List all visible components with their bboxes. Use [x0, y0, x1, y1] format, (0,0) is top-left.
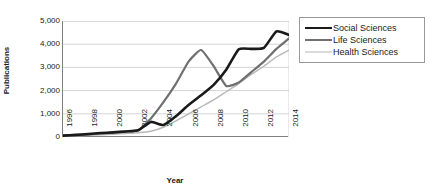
x-axis-tick-label: 1996 [65, 109, 74, 143]
x-axis-tick-label: 2012 [266, 109, 275, 143]
legend-line-swatch [303, 46, 333, 58]
y-axis-tick-label: 1,000 [16, 110, 60, 118]
x-axis-tick-label: 2000 [115, 109, 124, 143]
legend-item-label: Life Sciences [333, 35, 387, 46]
legend-line-swatch [303, 34, 333, 46]
legend-item[interactable]: Social Sciences [303, 22, 421, 34]
legend-item-label: Social Sciences [333, 23, 397, 34]
y-axis-title-text: Publications [3, 46, 12, 94]
x-axis-tick-label: 2002 [140, 109, 149, 143]
x-axis-tick-label: 1998 [90, 109, 99, 143]
y-axis-title: Publications [0, 0, 14, 140]
y-axis-tick-label: 3,000 [16, 63, 60, 71]
y-axis-tick-label: 5,000 [16, 17, 60, 25]
legend-item[interactable]: Health Sciences [303, 46, 421, 58]
y-axis-tick-label: 4,000 [16, 40, 60, 48]
legend-line-swatch [303, 22, 333, 34]
chart-legend: Social SciencesLife SciencesHealth Scien… [299, 17, 425, 63]
x-axis-tick-label: 2004 [165, 109, 174, 143]
y-axis-tick-label: 2,000 [16, 87, 60, 95]
x-axis-tick-label: 2006 [191, 109, 200, 143]
y-axis-tick-label: 0 [16, 133, 60, 141]
x-axis-tick-labels: 1996199820002002200420062008201020122014 [62, 137, 294, 177]
y-axis-tick-labels: 5,0004,0003,0002,0001,0000 [14, 0, 60, 192]
x-axis-title: Year [62, 176, 288, 185]
legend-item[interactable]: Life Sciences [303, 34, 421, 46]
x-axis-tick-label: 2010 [241, 109, 250, 143]
x-axis-tick-label: 2014 [291, 109, 300, 143]
x-axis-tick-label: 2008 [216, 109, 225, 143]
line-chart: Publications 5,0004,0003,0002,0001,0000 … [0, 0, 436, 192]
legend-item-label: Health Sciences [333, 47, 398, 58]
